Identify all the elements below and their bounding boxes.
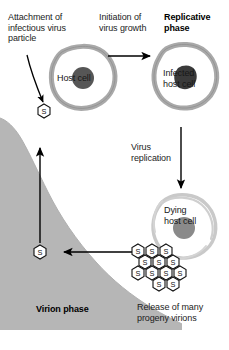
svg-text:S: S xyxy=(38,248,43,257)
svg-text:S: S xyxy=(164,247,169,256)
label-dying-host-cell: Dyinghost cell xyxy=(164,205,196,226)
svg-text:S: S xyxy=(136,247,141,256)
svg-text:S: S xyxy=(150,247,155,256)
virion: S xyxy=(153,255,165,269)
svg-text:S: S xyxy=(171,258,176,267)
virion: S xyxy=(160,244,172,258)
svg-text:S: S xyxy=(143,258,148,267)
label-attachment: Attachment ofinfectious virusparticle xyxy=(8,12,94,44)
virion: S xyxy=(139,255,151,269)
svg-text:S: S xyxy=(171,280,176,289)
label-initiation: Initiation ofvirus growth xyxy=(99,12,161,33)
label-virus-replication: Virusreplication xyxy=(131,142,171,163)
svg-text:S: S xyxy=(164,269,169,278)
svg-text:S: S xyxy=(157,258,162,267)
virion: S xyxy=(153,277,165,291)
virus-replication-cycle-artwork: S S S S S S S S S S S S S xyxy=(0,0,229,350)
svg-text:S: S xyxy=(136,269,141,278)
released-virion: S xyxy=(34,245,46,259)
virion: S xyxy=(174,266,186,280)
virion: S xyxy=(167,255,179,269)
label-host-cell: Host cell xyxy=(57,73,91,84)
virion: S xyxy=(132,266,144,280)
label-release: Release of manyprogeny virions xyxy=(137,302,229,323)
svg-text:S: S xyxy=(178,269,183,278)
diagram-canvas: S S S S S S S S S S S S S xyxy=(0,0,229,350)
svg-text:S: S xyxy=(42,107,47,116)
svg-text:S: S xyxy=(157,280,162,289)
virion: S xyxy=(146,244,158,258)
virion: S xyxy=(146,266,158,280)
virion: S xyxy=(167,277,179,291)
label-replicative-phase: Replicativephase xyxy=(164,12,228,33)
virion: S xyxy=(160,266,172,280)
label-infected-host-cell: Infectedhost cell xyxy=(163,68,195,89)
label-virion-phase: Virion phase xyxy=(36,304,89,315)
attaching-virion: S xyxy=(38,104,50,118)
virion: S xyxy=(132,244,144,258)
svg-text:S: S xyxy=(150,269,155,278)
arrow-attachment xyxy=(27,55,43,102)
